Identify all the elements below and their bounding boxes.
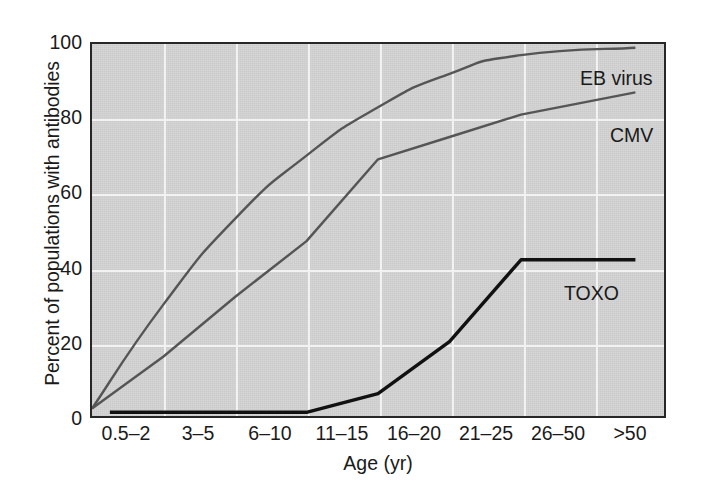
y-tick-label: 100 (36, 31, 82, 54)
y-tick-label: 80 (36, 106, 82, 129)
series-label-toxo: TOXO (564, 282, 619, 305)
x-tick-label: 16–20 (387, 422, 441, 445)
y-tick-label: 0 (36, 407, 82, 430)
x-tick-label: 26–50 (531, 422, 585, 445)
series-label-eb-virus: EB virus (580, 67, 653, 90)
x-tick-label: 6–10 (248, 422, 291, 445)
x-tick-label: >50 (613, 422, 646, 445)
x-tick-label: 3–5 (182, 422, 215, 445)
x-axis-tick-labels: 0.5–23–56–1011–1516–2021–2526–50>50 (90, 422, 666, 452)
plot-area: EB virusCMVTOXO (90, 42, 666, 418)
series-line-cmv (92, 92, 635, 408)
x-tick-label: 11–15 (316, 422, 369, 445)
x-axis-title: Age (yr) (90, 452, 666, 475)
y-axis-tick-labels: 020406080100 (34, 0, 82, 492)
series-line-eb-virus (92, 48, 635, 409)
series-label-cmv: CMV (610, 124, 653, 147)
chart-figure: Percent of populations with antibodies 0… (0, 0, 704, 492)
y-tick-label: 40 (36, 256, 82, 279)
series-lines (92, 44, 664, 416)
x-tick-label: 21–25 (459, 422, 513, 445)
y-tick-label: 20 (36, 331, 82, 354)
y-tick-label: 60 (36, 181, 82, 204)
x-tick-label: 0.5–2 (102, 422, 151, 445)
